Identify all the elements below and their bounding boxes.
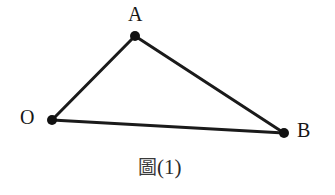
vertex-point-B — [279, 128, 289, 138]
vertex-point-A — [130, 31, 140, 41]
edge-A-B — [135, 36, 284, 133]
edge-O-A — [52, 36, 135, 120]
edge-O-B — [52, 120, 284, 133]
figure-caption-cjk: 圖 — [138, 156, 157, 178]
vertex-label-B: B — [297, 120, 310, 140]
vertex-label-A: A — [128, 4, 142, 24]
vertex-point-O — [47, 115, 57, 125]
vertex-label-O: O — [20, 107, 34, 127]
figure-caption-number: (1) — [157, 155, 182, 179]
figure-caption: 圖(1) — [138, 157, 182, 178]
triangle-edges — [52, 36, 284, 133]
figure-canvas: A O B 圖(1) — [0, 0, 335, 195]
